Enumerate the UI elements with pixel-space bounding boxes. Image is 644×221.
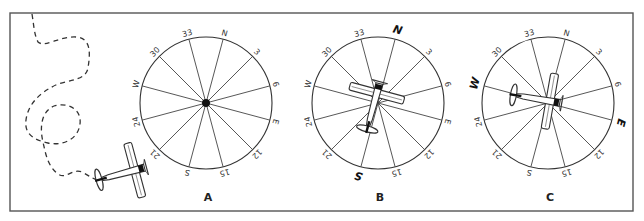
compass-pivot-dot: [202, 99, 210, 107]
compass-tick-label: 15: [561, 167, 573, 178]
compass-tick-label: 24: [473, 116, 484, 128]
compass-tick-label: S: [353, 169, 364, 184]
compass-panel-a: N36E1215S2124W3033A: [131, 28, 281, 204]
panel-label: A: [204, 191, 213, 204]
compass-tick-label: 24: [303, 116, 314, 128]
compass-tick-label: N: [221, 28, 229, 38]
compass-tick-label: 3: [424, 47, 434, 57]
compass-tick-label: 3: [252, 47, 262, 57]
airplane-icon: [88, 140, 154, 208]
compass-tick-label: E: [271, 118, 281, 125]
compass-tick-label: N: [391, 23, 403, 38]
diagram-canvas: N36E1215S2124W3033A N36E1215S2124W3033B …: [0, 0, 644, 221]
compass-tick-label: 24: [131, 116, 142, 128]
compass-tick-label: 15: [391, 167, 403, 178]
compass-tick-label: S: [526, 168, 533, 178]
compass-tick-label: W: [467, 75, 483, 91]
compass-tick-label: 33: [523, 28, 535, 39]
airplane-icon-ground-track: [88, 140, 154, 208]
compass-tick-label: 33: [181, 28, 193, 39]
dashed-flight-path: [26, 14, 104, 180]
panel-label: B: [376, 191, 384, 204]
compass-tick-label: 6: [443, 81, 453, 88]
compass-tick-label: 33: [353, 28, 365, 39]
panel-label: C: [546, 191, 554, 204]
compass-tick-label: E: [614, 117, 629, 128]
compass-tick-label: 6: [613, 81, 623, 88]
compass-tick-label: W: [131, 79, 142, 89]
compass-panel-b: N36E1215S2124W3033B: [303, 23, 453, 204]
compass-tick-label: S: [184, 168, 191, 178]
compass-tick-label: E: [443, 118, 453, 125]
compass-tick-label: 15: [219, 167, 231, 178]
compass-tick-label: N: [563, 28, 571, 38]
compass-tick-label: 6: [271, 81, 281, 88]
compass-panel-c: N36E1215S2124W3033C: [467, 28, 628, 204]
compass-tick-label: W: [303, 79, 314, 89]
magnetic-compass-turn-diagram: N36E1215S2124W3033A N36E1215S2124W3033B …: [0, 0, 644, 221]
compass-tick-label: 3: [594, 47, 604, 57]
